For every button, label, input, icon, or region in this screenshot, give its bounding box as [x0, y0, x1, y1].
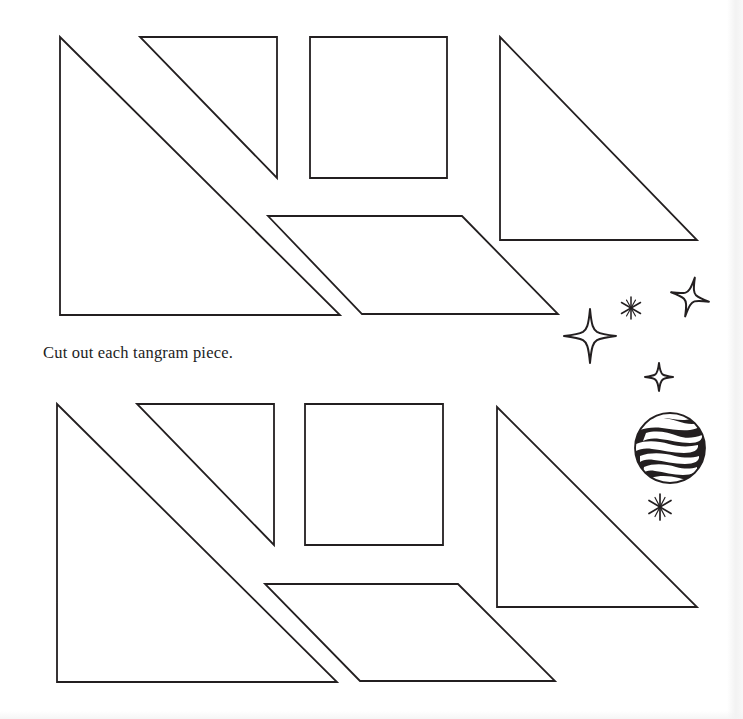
worksheet-page: Cut out each tangram piece.	[0, 0, 743, 719]
bottom-square[interactable]	[305, 404, 443, 545]
top-large-triangle-right[interactable]	[500, 37, 697, 240]
sparkle-asterisk-lower-icon	[649, 494, 671, 520]
bottom-tangram-set	[57, 404, 697, 682]
sparkle-asterisk-upper-icon	[622, 297, 641, 319]
top-tangram-set	[60, 37, 697, 315]
top-square[interactable]	[310, 37, 447, 178]
sparkle-star-large-icon	[564, 309, 616, 363]
sparkle-star-upper-right-icon	[666, 273, 714, 321]
planet-icon	[635, 413, 705, 486]
sparkle-star-small-icon	[645, 363, 673, 391]
instruction-text: Cut out each tangram piece.	[43, 343, 233, 363]
